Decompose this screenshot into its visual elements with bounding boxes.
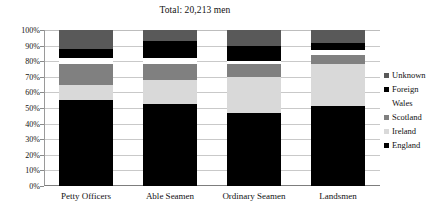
legend-label: England bbox=[392, 140, 420, 150]
bar-segment-england[interactable] bbox=[59, 100, 113, 186]
legend-swatch-icon bbox=[384, 115, 389, 120]
bar-segment-england[interactable] bbox=[227, 113, 281, 186]
bar-group-landsmen[interactable] bbox=[296, 30, 380, 186]
bar-segment-foreign[interactable] bbox=[227, 46, 281, 62]
chart-legend: UnknownForeignWalesScotlandIrelandEnglan… bbox=[384, 68, 444, 152]
legend-item-wales[interactable]: Wales bbox=[384, 96, 444, 110]
bar-segment-ireland[interactable] bbox=[143, 80, 197, 104]
y-axis: 100%90%80%70%60%50%40%30%20%10%0% bbox=[0, 30, 40, 186]
chart-title: Total: 20,213 men bbox=[0, 4, 390, 16]
bar-segment-scotland[interactable] bbox=[227, 64, 281, 76]
bar-segment-scotland[interactable] bbox=[59, 64, 113, 84]
bar-segment-unknown[interactable] bbox=[227, 30, 281, 46]
legend-swatch-icon bbox=[384, 73, 389, 78]
legend-swatch-icon bbox=[384, 129, 389, 134]
y-tick-label: 100% bbox=[0, 26, 40, 35]
bar-group-able-seamen[interactable] bbox=[128, 30, 212, 186]
y-tick-mark bbox=[40, 186, 44, 187]
legend-swatch-icon bbox=[384, 143, 389, 148]
bar-segment-unknown[interactable] bbox=[59, 30, 113, 49]
y-tick-label: 30% bbox=[0, 135, 40, 144]
bar-segment-ireland[interactable] bbox=[227, 77, 281, 113]
bar-segment-ireland[interactable] bbox=[311, 64, 365, 105]
x-axis: Petty OfficersAble SeamenOrdinary Seamen… bbox=[44, 190, 380, 202]
bar-stack bbox=[143, 30, 197, 186]
stacked-bar-chart: Total: 20,213 men 100%90%80%70%60%50%40%… bbox=[0, 0, 444, 220]
bar-segment-england[interactable] bbox=[311, 106, 365, 186]
y-tick-label: 70% bbox=[0, 72, 40, 81]
bar-stack bbox=[59, 30, 113, 186]
legend-label: Scotland bbox=[392, 112, 422, 122]
legend-item-foreign[interactable]: Foreign bbox=[384, 82, 444, 96]
legend-item-england[interactable]: England bbox=[384, 138, 444, 152]
bar-stack bbox=[311, 30, 365, 186]
y-tick-label: 40% bbox=[0, 119, 40, 128]
bar-segment-foreign[interactable] bbox=[311, 43, 365, 51]
legend-swatch-icon bbox=[384, 87, 389, 92]
y-tick-label: 60% bbox=[0, 88, 40, 97]
x-tick-label: Able Seamen bbox=[128, 190, 212, 202]
bar-segment-foreign[interactable] bbox=[143, 41, 197, 58]
y-tick-label: 50% bbox=[0, 104, 40, 113]
bar-segment-foreign[interactable] bbox=[59, 49, 113, 58]
y-tick-label: 90% bbox=[0, 41, 40, 50]
y-tick-label: 20% bbox=[0, 150, 40, 159]
legend-label: Foreign bbox=[392, 84, 418, 94]
y-tick-label: 0% bbox=[0, 182, 40, 191]
legend-label: Wales bbox=[392, 98, 413, 108]
x-tick-label: Landsmen bbox=[296, 190, 380, 202]
bar-segment-unknown[interactable] bbox=[311, 30, 365, 42]
bar-segment-unknown[interactable] bbox=[143, 30, 197, 41]
bar-group-petty-officers[interactable] bbox=[44, 30, 128, 186]
bar-segment-scotland[interactable] bbox=[143, 64, 197, 80]
legend-label: Unknown bbox=[392, 70, 426, 80]
bar-segment-scotland[interactable] bbox=[311, 55, 365, 64]
legend-item-scotland[interactable]: Scotland bbox=[384, 110, 444, 124]
y-tick-label: 10% bbox=[0, 166, 40, 175]
bars-layer bbox=[44, 30, 380, 186]
legend-label: Ireland bbox=[392, 126, 416, 136]
bar-stack bbox=[227, 30, 281, 186]
bar-segment-england[interactable] bbox=[143, 104, 197, 186]
x-tick-label: Petty Officers bbox=[44, 190, 128, 202]
legend-swatch-icon bbox=[384, 101, 389, 106]
bar-segment-ireland[interactable] bbox=[59, 85, 113, 101]
bar-group-ordinary-seamen[interactable] bbox=[212, 30, 296, 186]
x-tick-label: Ordinary Seamen bbox=[212, 190, 296, 202]
y-tick-label: 80% bbox=[0, 57, 40, 66]
legend-item-unknown[interactable]: Unknown bbox=[384, 68, 444, 82]
legend-item-ireland[interactable]: Ireland bbox=[384, 124, 444, 138]
